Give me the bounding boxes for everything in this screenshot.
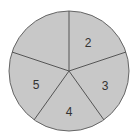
sector-label-4: 4 — [66, 105, 73, 119]
spinner-diagram: 2 3 4 5 — [0, 0, 136, 138]
sector-label-2: 2 — [85, 36, 92, 50]
sector-label-5: 5 — [33, 78, 40, 92]
sector-label-3: 3 — [102, 79, 109, 93]
